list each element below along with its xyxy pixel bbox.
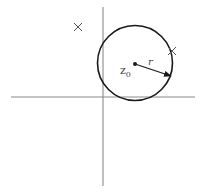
complex-plane-diagram: z0 r	[0, 0, 199, 194]
radius-arrow	[135, 64, 171, 76]
center-label: z0	[120, 64, 131, 79]
radius-label: r	[148, 56, 154, 67]
cross-marker-outside	[74, 23, 82, 31]
